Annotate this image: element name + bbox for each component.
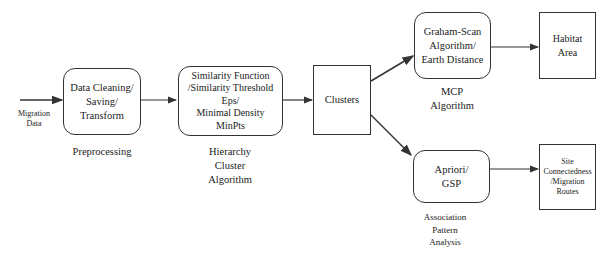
node-preprocessing: Data Cleaning/ Saving/ Transform bbox=[63, 68, 141, 135]
caption-hierarchy-cluster-algorithm: Hierarchy Cluster Algorithm bbox=[185, 145, 275, 187]
node-hierarchy-cluster: Similarity Function /Similarity Threshol… bbox=[178, 66, 283, 136]
node-mcp: Graham-Scan Algorithm/ Earth Distance bbox=[414, 12, 491, 79]
node-mcp-text: Graham-Scan Algorithm/ Earth Distance bbox=[421, 25, 483, 67]
node-hierarchy-text: Similarity Function /Similarity Threshol… bbox=[188, 70, 274, 133]
caption-mcp-algorithm: MCP Algorithm bbox=[412, 85, 492, 113]
arrow-clusters-to-mcp bbox=[371, 56, 413, 81]
node-association-text: Apriori/ GSP bbox=[435, 163, 469, 191]
caption-preprocessing: Preprocessing bbox=[58, 145, 146, 159]
node-clusters: Clusters bbox=[313, 65, 371, 135]
node-clusters-text: Clusters bbox=[325, 93, 359, 107]
node-site-connectedness: Site Connectedness /Migration Routes bbox=[539, 144, 596, 210]
node-association: Apriori/ GSP bbox=[413, 150, 490, 203]
node-habitat-text: Habitat Area bbox=[553, 32, 582, 60]
input-label-migration-data: Migration Data bbox=[14, 109, 54, 129]
caption-association-pattern-analysis: Association Pattern Analysis bbox=[415, 211, 475, 249]
node-preprocessing-text: Data Cleaning/ Saving/ Transform bbox=[70, 81, 133, 123]
node-habitat-area: Habitat Area bbox=[539, 12, 596, 79]
arrow-clusters-to-association bbox=[371, 115, 411, 155]
node-site-text: Site Connectedness /Migration Routes bbox=[544, 157, 592, 197]
